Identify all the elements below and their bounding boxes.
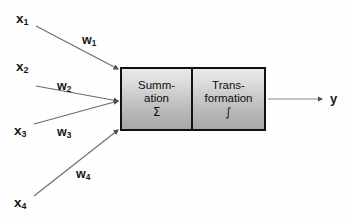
transformation-line-1: Trans-	[212, 79, 245, 92]
connection-line-x1	[36, 26, 118, 69]
weight-label-w2: w2	[57, 80, 71, 94]
summation-cell: Summ- ation Σ	[122, 69, 193, 129]
input-label-x2: x2	[16, 60, 28, 75]
neuron-block: Summ- ation Σ Trans- formation ∫	[120, 67, 266, 131]
weight-label-w3: w3	[57, 126, 71, 140]
input-label-x4: x4	[14, 196, 26, 211]
connection-line-x2	[36, 86, 118, 101]
summation-line-1: Summ-	[138, 79, 175, 92]
transformation-line-2: formation	[205, 92, 253, 105]
weight-label-w4: w4	[76, 168, 90, 182]
weight-label-w1: w1	[82, 34, 96, 48]
input-label-x3: x3	[14, 124, 26, 139]
input-label-x1: x1	[16, 12, 28, 27]
connection-line-x4	[34, 130, 118, 196]
sigma-symbol: Σ	[153, 106, 160, 119]
summation-line-2: ation	[144, 92, 169, 105]
connection-line-x3	[34, 101, 118, 124]
integral-symbol: ∫	[226, 106, 232, 119]
diagram-canvas: x1 x2 x3 x4 w1 w2 w3 w4 Summ- ation Σ Tr…	[0, 0, 348, 223]
output-label-y: y	[330, 92, 337, 105]
transformation-cell: Trans- formation ∫	[193, 69, 264, 129]
